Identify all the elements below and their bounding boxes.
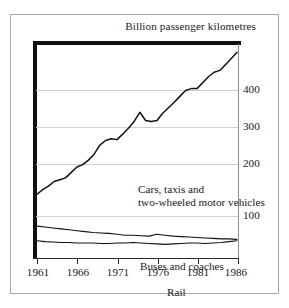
series-label-rail-line1: Rail xyxy=(167,286,186,299)
plot-area: Cars, taxis and two-wheeled motor vehicl… xyxy=(36,44,238,258)
x-tick-mark-1986 xyxy=(238,259,239,264)
y-tick-label-100: 100 xyxy=(243,210,260,221)
series-lines-svg xyxy=(36,44,238,258)
x-tick-mark-1981 xyxy=(198,259,199,264)
x-tick-label-1976: 1976 xyxy=(147,266,169,278)
y-tick-label-400: 400 xyxy=(243,84,260,95)
series-label-cars: Cars, taxis and two-wheeled motor vehicl… xyxy=(138,183,265,208)
series-line-cars-taxis-two-wheeled xyxy=(37,52,237,194)
plot-frame-right-rule xyxy=(238,44,239,259)
series-label-cars-line2: two-wheeled motor vehicles xyxy=(138,196,265,209)
chart-title: Billion passenger kilometres xyxy=(0,20,268,32)
x-tick-mark-1966 xyxy=(77,259,78,264)
x-axis-line xyxy=(33,258,239,259)
x-tick-mark-1961 xyxy=(37,259,38,264)
x-tick-label-1971: 1971 xyxy=(107,266,129,278)
series-line-rail xyxy=(37,241,237,245)
series-label-cars-line1: Cars, taxis and xyxy=(138,183,265,196)
x-tick-label-1961: 1961 xyxy=(27,266,49,278)
x-tick-label-1966: 1966 xyxy=(67,266,89,278)
x-tick-label-1986: 1986 xyxy=(225,266,247,278)
series-line-buses-and-coaches xyxy=(37,226,237,239)
chart-figure: Billion passenger kilometres Cars, taxis… xyxy=(0,0,289,308)
x-tick-mark-1976 xyxy=(158,259,159,264)
x-tick-label-1981: 1981 xyxy=(187,266,209,278)
series-label-rail: Rail xyxy=(167,286,186,299)
y-tick-label-300: 300 xyxy=(243,121,260,132)
x-tick-mark-1971 xyxy=(118,259,119,264)
y-tick-label-200: 200 xyxy=(243,158,260,169)
